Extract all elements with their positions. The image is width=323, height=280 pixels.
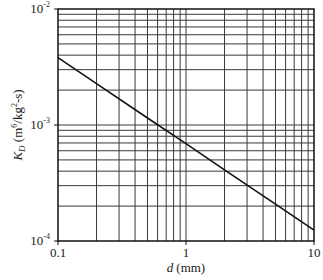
- x-axis-ticks: 0.1110: [50, 241, 321, 260]
- chart: 0.1110 10-410-310-2 d(mm) KD (m6/kg2-s): [0, 0, 323, 280]
- grid-lines: [58, 9, 314, 241]
- x-tick-label: 1: [183, 245, 190, 260]
- y-tick-label: 10-3: [30, 116, 50, 132]
- x-axis-label: d(mm): [167, 260, 205, 275]
- y-axis-label: KD (m6/kg2-s): [10, 89, 27, 161]
- y-axis-ticks: 10-410-310-2: [30, 0, 58, 248]
- y-tick-label: 10-2: [30, 0, 50, 16]
- y-tick-label: 10-4: [30, 232, 50, 248]
- x-tick-label: 10: [308, 245, 321, 260]
- x-tick-label: 0.1: [50, 245, 66, 260]
